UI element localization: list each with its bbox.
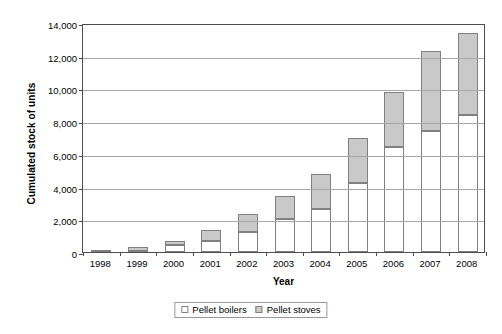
x-tick-label: 1999 xyxy=(126,258,147,269)
x-tick-mark xyxy=(120,252,121,256)
y-tick-label: 6,000 xyxy=(17,150,83,161)
bar-segment-pellet-boilers xyxy=(275,219,295,252)
x-tick-label: 1998 xyxy=(90,258,111,269)
x-tick-label: 2007 xyxy=(419,258,440,269)
bar-group xyxy=(384,25,404,252)
x-tick-mark xyxy=(376,252,377,256)
x-tick-mark xyxy=(413,252,414,256)
y-axis-title: Cumulated stock of units xyxy=(26,54,37,234)
x-tick-label: 2003 xyxy=(273,258,294,269)
bar-segment-pellet-boilers xyxy=(165,245,185,252)
y-tick-label: 12,000 xyxy=(17,52,83,63)
y-tick-label: 0 xyxy=(17,249,83,260)
bar-segment-pellet-stoves xyxy=(201,230,221,241)
x-tick-mark xyxy=(230,252,231,256)
x-tick-label: 2008 xyxy=(456,258,477,269)
legend-label: Pellet boilers xyxy=(192,305,246,315)
x-tick-label: 2006 xyxy=(383,258,404,269)
bar-group xyxy=(165,25,185,252)
bar-segment-pellet-stoves xyxy=(165,241,185,246)
x-tick-label: 2004 xyxy=(310,258,331,269)
gridline xyxy=(83,90,484,91)
bar-group xyxy=(91,25,111,252)
bar-segment-pellet-boilers xyxy=(384,147,404,252)
legend-item: Pellet stoves xyxy=(256,305,321,315)
gridline xyxy=(83,123,484,124)
y-tick-label: 4,000 xyxy=(17,183,83,194)
bar-group xyxy=(238,25,258,252)
x-tick-mark xyxy=(449,252,450,256)
x-tick-mark xyxy=(193,252,194,256)
legend-label: Pellet stoves xyxy=(267,305,321,315)
plot-area: 02,0004,0006,0008,00010,00012,00014,000 xyxy=(82,24,485,253)
x-axis-title: Year xyxy=(82,276,485,287)
x-tick-mark xyxy=(486,252,487,256)
legend-swatch xyxy=(256,306,263,313)
x-tick-mark xyxy=(339,252,340,256)
bar-segment-pellet-boilers xyxy=(201,241,221,252)
bar-group xyxy=(275,25,295,252)
x-tick-label: 2001 xyxy=(200,258,221,269)
legend-swatch xyxy=(181,306,188,313)
bar-segment-pellet-stoves xyxy=(458,33,478,115)
bar-segment-pellet-boilers xyxy=(311,209,331,252)
bar-segment-pellet-stoves xyxy=(128,247,148,251)
bar-segment-pellet-boilers xyxy=(238,232,258,252)
x-tick-label: 2000 xyxy=(163,258,184,269)
gridline xyxy=(83,221,484,222)
x-tick-label: 2002 xyxy=(236,258,257,269)
bar-group xyxy=(458,25,478,252)
bar-segment-pellet-boilers xyxy=(348,183,368,252)
bar-segment-pellet-stoves xyxy=(348,138,368,184)
bars-layer xyxy=(83,25,484,252)
bar-segment-pellet-stoves xyxy=(311,174,331,209)
x-tick-label: 2005 xyxy=(346,258,367,269)
x-tick-mark xyxy=(303,252,304,256)
bar-group xyxy=(348,25,368,252)
bar-segment-pellet-stoves xyxy=(275,196,295,219)
stacked-bar-chart: Cumulated stock of units 02,0004,0006,00… xyxy=(0,0,502,334)
gridline xyxy=(83,58,484,59)
x-tick-mark xyxy=(156,252,157,256)
y-tick-label: 2,000 xyxy=(17,216,83,227)
bar-segment-pellet-boilers xyxy=(421,131,441,252)
bar-segment-pellet-boilers xyxy=(458,115,478,252)
gridline xyxy=(83,189,484,190)
bar-segment-pellet-stoves xyxy=(238,214,258,231)
y-tick-label: 14,000 xyxy=(17,20,83,31)
bar-segment-pellet-stoves xyxy=(384,92,404,148)
bar-group xyxy=(421,25,441,252)
bar-group xyxy=(311,25,331,252)
x-tick-mark xyxy=(266,252,267,256)
x-tick-mark xyxy=(83,252,84,256)
legend-item: Pellet boilers xyxy=(181,305,246,315)
y-tick-label: 8,000 xyxy=(17,118,83,129)
chart-legend: Pellet boilersPellet stoves xyxy=(174,302,327,318)
gridline xyxy=(83,156,484,157)
bar-group xyxy=(128,25,148,252)
bar-segment-pellet-stoves xyxy=(91,250,111,252)
y-tick-label: 10,000 xyxy=(17,85,83,96)
bar-group xyxy=(201,25,221,252)
